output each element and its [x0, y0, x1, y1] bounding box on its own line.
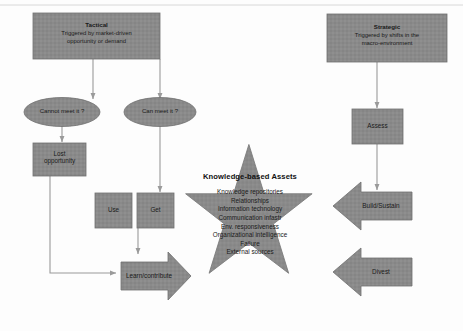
- diagram-canvas: Tactical Triggered by market-driven oppo…: [0, 0, 463, 331]
- strategic-box[interactable]: [327, 14, 447, 62]
- knowledge-assets-star[interactable]: [186, 144, 312, 273]
- cannot-meet-ellipse[interactable]: [24, 98, 100, 127]
- diagram-shapes: [0, 0, 463, 331]
- tactical-box[interactable]: [33, 13, 160, 59]
- get-box[interactable]: [137, 193, 174, 228]
- build-sustain-arrow[interactable]: [333, 182, 412, 230]
- divest-arrow[interactable]: [333, 248, 412, 296]
- can-meet-ellipse[interactable]: [124, 98, 196, 127]
- lost-opportunity-box[interactable]: [33, 143, 86, 176]
- assess-box[interactable]: [352, 109, 403, 144]
- learn-contribute-arrow[interactable]: [121, 252, 191, 300]
- use-box[interactable]: [95, 193, 132, 228]
